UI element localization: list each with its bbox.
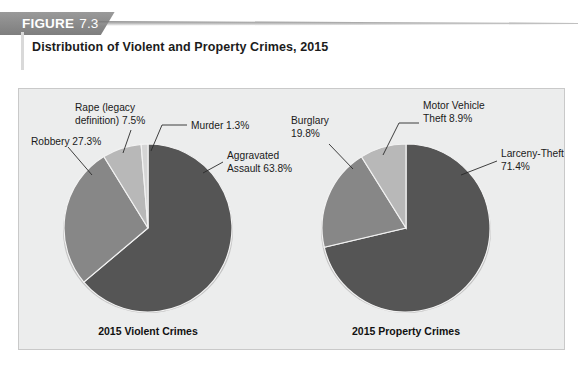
- label-murder: Murder 1.3%: [191, 120, 249, 131]
- figure-number-tag: FIGURE 7.3: [0, 12, 115, 35]
- figure-title: Distribution of Violent and Property Cri…: [32, 40, 328, 54]
- figure-title-block: Distribution of Violent and Property Cri…: [18, 38, 565, 68]
- label-larceny-line2: 71.4%: [501, 161, 530, 172]
- figure-tag-word: FIGURE: [22, 16, 74, 31]
- header-divider-rule: [98, 21, 578, 26]
- label-robbery: Robbery 27.3%: [31, 136, 101, 147]
- pie-right-slices: [322, 144, 490, 312]
- chart-panel: Robbery 27.3% Rape (legacy definition) 7…: [18, 88, 565, 350]
- title-accent-bar: [21, 32, 24, 70]
- label-aggravated-line1: Aggravated: [227, 150, 279, 161]
- pie-chart-violent-crimes: [63, 144, 233, 313]
- pie-left-slices: [64, 144, 232, 312]
- caption-property-crimes: 2015 Property Crimes: [352, 325, 460, 337]
- caption-violent-crimes: 2015 Violent Crimes: [98, 325, 198, 337]
- label-rape-line1: Rape (legacy: [75, 102, 136, 113]
- label-aggravated-line2: Assault 63.8%: [227, 163, 292, 174]
- label-mvt-line1: Motor Vehicle: [423, 100, 485, 111]
- figure-tag-number: 7.3: [79, 16, 98, 31]
- leader-line-burglary: [329, 144, 353, 169]
- label-burglary-line1: Burglary: [291, 115, 330, 126]
- label-rape-line2: definition) 7.5%: [75, 115, 145, 126]
- label-mvt-line2: Theft 8.9%: [423, 113, 472, 124]
- leader-line-robbery: [68, 147, 92, 175]
- pie-chart-property-crimes: [321, 144, 491, 313]
- label-larceny-line1: Larceny-Theft: [501, 148, 564, 159]
- leader-line-larceny-theft: [461, 161, 497, 175]
- figure-header: FIGURE 7.3: [0, 12, 583, 38]
- pie-charts-svg: Robbery 27.3% Rape (legacy definition) 7…: [19, 89, 564, 349]
- label-burglary-line2: 19.8%: [291, 128, 320, 139]
